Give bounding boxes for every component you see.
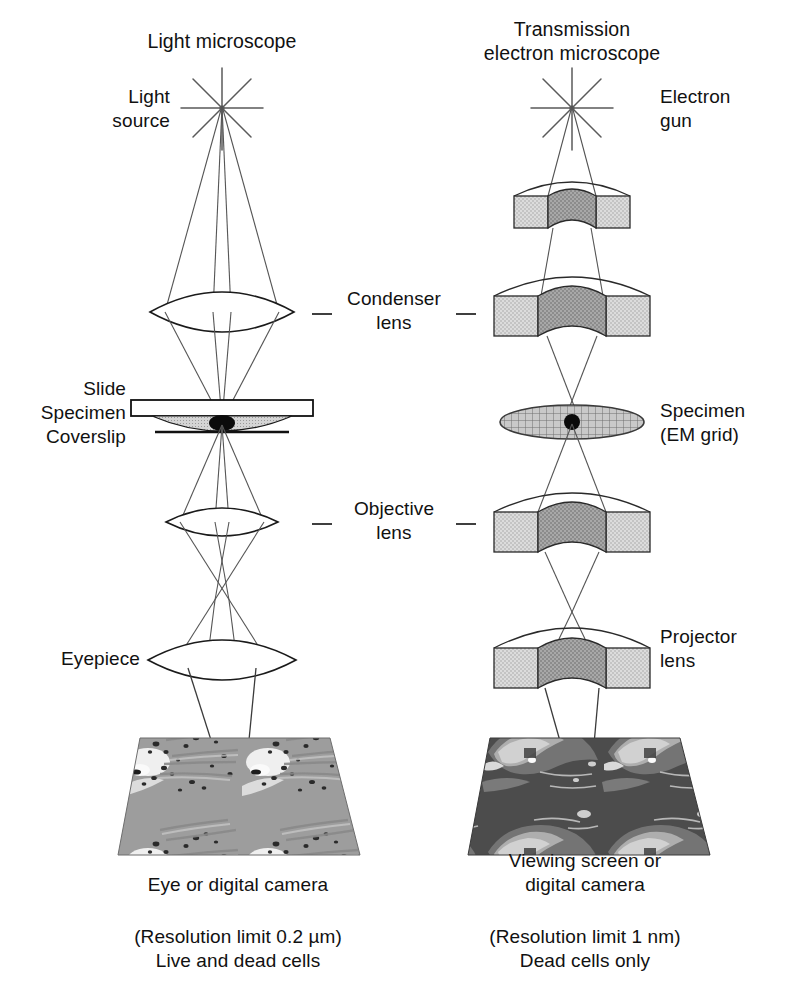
specimen-spot bbox=[564, 414, 580, 430]
electron-microscope-title-line1: Transmission bbox=[514, 18, 630, 41]
electron-microscope-column bbox=[468, 68, 710, 855]
projector-lens-electromagnetic bbox=[494, 628, 650, 688]
light-ray-bundle-objective-to-eyepiece bbox=[180, 522, 264, 655]
em-grid-specimen bbox=[500, 405, 644, 439]
objective-lens-optical bbox=[166, 508, 278, 536]
electron-microscope-title-line2: electron microscope bbox=[484, 42, 660, 65]
microscope-slide bbox=[131, 400, 313, 416]
coverslip-label: Coverslip bbox=[46, 426, 126, 448]
objective-lens-label-line1: Objective bbox=[354, 498, 434, 520]
projector-lens-label-line1: Projector bbox=[660, 626, 737, 648]
objective-lens-electromagnetic bbox=[494, 493, 650, 552]
light-microscope-title: Light microscope bbox=[147, 30, 296, 53]
condenser-lens-label-line1: Condenser bbox=[347, 288, 441, 310]
light-source-label-line2: source bbox=[112, 110, 170, 132]
light-micrograph-panel bbox=[118, 738, 360, 855]
light-source-label-line1: Light bbox=[128, 86, 170, 108]
light-cells-footnote: Live and dead cells bbox=[156, 950, 321, 972]
condenser-lens-label-line2: lens bbox=[376, 312, 411, 334]
microscope-comparison-figure: Light microscope Light source Transmissi… bbox=[0, 0, 794, 997]
light-detector-caption: Eye or digital camera bbox=[148, 874, 329, 896]
eyepiece-lens-optical bbox=[148, 640, 296, 680]
specimen-label: Specimen bbox=[41, 402, 126, 424]
electron-detector-caption-line2: digital camera bbox=[525, 874, 645, 896]
em-specimen-label-line2: (EM grid) bbox=[660, 424, 739, 446]
electron-gun-label-line2: gun bbox=[660, 110, 692, 132]
light-resolution-footnote: (Resolution limit 0.2 µm) bbox=[134, 926, 342, 948]
em-specimen-label-line1: Specimen bbox=[660, 400, 745, 422]
condenser-lens-electromagnetic bbox=[494, 277, 650, 336]
condenser-lens-optical bbox=[150, 292, 294, 332]
electron-detector-caption-line1: Viewing screen or bbox=[509, 850, 661, 872]
shared-label-dashes bbox=[312, 314, 476, 524]
condenser-lens-electromagnetic-upper bbox=[514, 182, 630, 228]
light-microscope-column bbox=[118, 68, 360, 855]
electron-gun-label-line1: Electron bbox=[660, 86, 731, 108]
electron-cells-footnote: Dead cells only bbox=[520, 950, 650, 972]
projector-lens-label-line2: lens bbox=[660, 650, 695, 672]
electron-resolution-footnote: (Resolution limit 1 nm) bbox=[489, 926, 680, 948]
slide-label: Slide bbox=[83, 378, 126, 400]
objective-lens-label-line2: lens bbox=[376, 522, 411, 544]
electron-micrograph-panel bbox=[468, 738, 710, 855]
eyepiece-label: Eyepiece bbox=[61, 648, 140, 670]
